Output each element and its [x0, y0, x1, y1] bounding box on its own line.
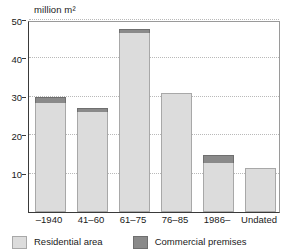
chart-container: million m² 1020304050 –194041–6061–7576–… [0, 0, 293, 252]
y-axis-unit-label: million m² [34, 4, 76, 15]
bar-segment-residential [119, 33, 150, 212]
bar-segment-residential [35, 103, 66, 212]
y-tick-label-30: 30 [11, 93, 22, 103]
x-tick-label-6: Undated [241, 215, 277, 225]
y-tick-mark-50 [22, 20, 26, 21]
legend-label-residential: Residential area [34, 237, 103, 247]
y-tick-mark-20 [22, 135, 26, 136]
bar-segment-commercial [203, 155, 234, 163]
y-tick-label-50: 50 [11, 16, 22, 26]
bar-3 [119, 29, 150, 212]
y-tick-mark-40 [22, 58, 26, 59]
legend-label-commercial: Commercial premises [155, 237, 247, 247]
y-tick-mark-30 [22, 97, 26, 98]
plot-area [28, 21, 280, 213]
x-tick-label-3: 61–75 [120, 215, 146, 225]
bar-segment-residential [203, 163, 234, 212]
y-tick-label-20: 20 [11, 131, 22, 141]
bar-5 [203, 155, 234, 212]
bar-group [29, 22, 279, 212]
bar-segment-residential [245, 168, 276, 212]
bar-segment-residential [161, 93, 192, 212]
y-tick-label-10: 10 [11, 170, 22, 180]
legend-item-residential: Residential area [12, 236, 103, 249]
x-axis-labels: –194041–6061–7576–851986–Undated [28, 215, 280, 231]
legend-item-commercial: Commercial premises [133, 236, 247, 249]
chart-legend: Residential area Commercial premises [12, 234, 282, 250]
x-tick-label-1: –1940 [36, 215, 62, 225]
bar-6 [245, 168, 276, 212]
x-tick-label-4: 76–85 [162, 215, 188, 225]
bar-1 [35, 97, 66, 212]
bar-segment-residential [77, 112, 108, 212]
gridline-50 [29, 19, 279, 20]
y-tick-label-40: 40 [11, 55, 22, 65]
bar-4 [161, 93, 192, 212]
y-axis-labels: 1020304050 [0, 21, 26, 213]
x-tick-label-5: 1986– [204, 215, 230, 225]
legend-swatch-residential [12, 236, 27, 249]
y-tick-mark-10 [22, 174, 26, 175]
legend-swatch-commercial [133, 236, 148, 249]
bar-2 [77, 108, 108, 212]
x-tick-label-2: 41–60 [78, 215, 104, 225]
